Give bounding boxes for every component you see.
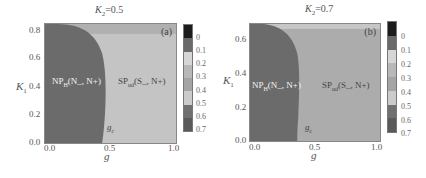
ytick-a-0: 0.0	[29, 137, 40, 147]
ytick-a-2: 0.4	[29, 81, 40, 91]
xlabel-b: g	[311, 149, 317, 161]
cbar-b-tick-3: 0.3	[401, 74, 411, 83]
cbar-b-tick-4: 0.4	[401, 88, 411, 97]
colorbar-a	[183, 24, 193, 132]
cbar-b-tick-6: 0.6	[401, 116, 411, 125]
panel-a-title: K2=0.5	[95, 4, 123, 18]
panel-b: K2=0.7 (b) NPH(N_, N+) SPud(S_, N+) gc 0…	[213, 0, 426, 178]
cbar-a-tick-1: 0.1	[196, 46, 206, 55]
xtick-a-2: 1.0	[168, 143, 179, 153]
np-region-label-a: NPH(N_, N+)	[52, 76, 101, 88]
xtick-b-0: 0.0	[249, 142, 260, 152]
cbar-a-tick-2: 0.2	[196, 59, 206, 68]
xtick-b-2: 1.0	[371, 142, 382, 152]
cbar-a-tick-4: 0.4	[196, 86, 206, 95]
heatmap-b: (b) NPH(N_, N+) SPud(S_, N+) gc	[249, 23, 381, 142]
xlabel-a: g	[104, 150, 110, 162]
panel-a: K2=0.5 (a) NPH(N_, N+) SPud(S_, N+) gc 0…	[0, 0, 213, 178]
ytick-a-3: 0.6	[29, 52, 40, 62]
heatmap-a: (a) NPH(N_, N+) SPud(S_, N+) gc	[44, 23, 177, 144]
ytick-b-1: 0.2	[235, 102, 246, 112]
cbar-a-tick-3: 0.3	[196, 72, 206, 81]
ylabel-b: K1	[223, 74, 234, 89]
panel-b-title: K2=0.7	[305, 3, 333, 17]
xtick-a-0: 0.0	[44, 143, 55, 153]
colorbar-b	[387, 21, 397, 133]
cbar-b-tick-2: 0.2	[401, 60, 411, 69]
cbar-a-tick-0: 0	[196, 33, 200, 42]
gc-label-a: gc	[107, 122, 114, 134]
gc-label-b: gc	[305, 122, 312, 134]
cbar-b-tick-5: 0.5	[401, 102, 411, 111]
ytick-b-0: 0.0	[235, 135, 246, 145]
panel-b-tag: (b)	[364, 26, 376, 37]
sp-region-label-a: SPud(S_, N+)	[118, 76, 166, 88]
ytick-a-4: 0.8	[29, 25, 40, 35]
cbar-b-tick-1: 0.1	[401, 46, 411, 55]
ylabel-a: K1	[16, 80, 27, 95]
cbar-b-tick-7: 0.7	[401, 129, 411, 138]
cbar-a-tick-7: 0.7	[196, 125, 206, 134]
cbar-a-tick-5: 0.5	[196, 99, 206, 108]
sp-region-label-b: SPud(S_, N+)	[322, 80, 370, 92]
panel-a-tag: (a)	[161, 26, 172, 37]
ytick-b-3: 0.6	[235, 34, 246, 44]
np-region-label-b: NPH(N_, N+)	[252, 80, 301, 92]
ytick-a-1: 0.2	[29, 109, 40, 119]
cbar-a-tick-6: 0.6	[196, 112, 206, 121]
ytick-b-2: 0.4	[235, 68, 246, 78]
cbar-b-tick-0: 0	[401, 32, 405, 41]
